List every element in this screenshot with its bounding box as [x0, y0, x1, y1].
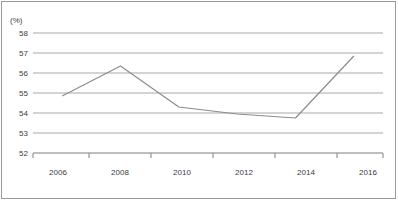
chart-screenshot: (%) 58 57 56 55 54 53 52 2006 2008 2010 …: [0, 0, 398, 201]
data-series-line: [62, 56, 354, 118]
x-axis: [33, 153, 383, 158]
gridlines: [33, 33, 383, 133]
chart-plot-area: [0, 0, 398, 201]
